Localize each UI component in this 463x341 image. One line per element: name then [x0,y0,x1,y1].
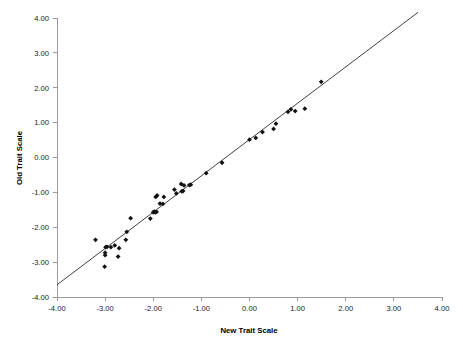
x-axis-title: New Trait Scale [220,326,278,335]
data-point-marker [102,264,107,269]
data-point-marker [302,106,307,111]
y-axis-tick-marks [53,18,57,297]
data-point-marker [93,237,98,242]
x-axis-tick-labels: -4.00-3.00-2.00-1.000.001.002.003.004.00 [48,304,449,313]
plot-canvas: -4.00-3.00-2.00-1.000.001.002.003.004.00… [0,0,463,341]
x-tick-label: -2.00 [145,304,162,313]
data-point-marker [204,171,209,176]
x-tick-label: -4.00 [48,304,65,313]
data-point-marker [128,216,133,221]
y-tick-label: 0.00 [34,153,49,162]
data-point-marker [160,201,165,206]
y-axis-title: Old Trait Scale [15,130,24,185]
x-tick-label: 4.00 [435,304,450,313]
x-tick-label: 2.00 [338,304,353,313]
data-point-marker [293,109,298,114]
x-tick-label: 3.00 [386,304,401,313]
data-point-marker [172,187,177,192]
y-tick-label: -4.00 [32,293,49,302]
data-point-marker [271,127,276,132]
x-tick-label: -3.00 [96,304,113,313]
data-point-marker [274,121,279,126]
y-tick-label: 1.00 [34,118,49,127]
x-tick-label: 1.00 [290,304,305,313]
data-point-marker [116,254,121,259]
scatter-chart-figure: -4.00-3.00-2.00-1.000.001.002.003.004.00… [0,0,463,341]
y-tick-label: -2.00 [32,223,49,232]
data-point-marker [117,246,122,251]
y-tick-label: 3.00 [34,49,49,58]
data-point-marker [123,237,128,242]
data-point-marker [103,250,108,255]
data-point-marker [319,79,324,84]
data-point-marker [260,130,265,135]
y-tick-label: -3.00 [32,258,49,267]
data-point-marker [148,216,153,221]
y-tick-label: 2.00 [34,84,49,93]
data-point-group [93,79,324,269]
x-tick-label: 0.00 [242,304,257,313]
x-axis-tick-marks [57,297,442,301]
y-tick-label: 4.00 [34,14,49,23]
data-point-marker [161,195,166,200]
y-tick-label: -1.00 [32,188,49,197]
reference-fit-line [57,12,418,284]
y-axis-tick-labels: -4.00-3.00-2.00-1.000.001.002.003.004.00 [32,14,49,302]
x-tick-label: -1.00 [193,304,210,313]
data-point-marker [174,191,179,196]
